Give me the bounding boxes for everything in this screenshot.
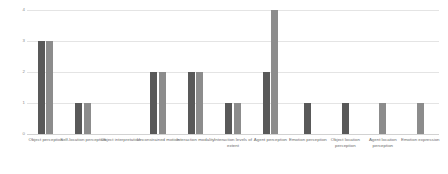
y-axis: 01234 <box>0 10 25 134</box>
y-tick-label-1: 1 <box>11 101 25 105</box>
bar <box>46 41 53 134</box>
bar-group <box>27 10 64 134</box>
y-tick-label-2: 2 <box>11 70 25 74</box>
bar <box>196 72 203 134</box>
bars-layer <box>27 10 439 134</box>
y-tick-label-0: 0 <box>11 132 25 136</box>
bar <box>304 103 311 134</box>
bar-group <box>402 10 439 134</box>
category-label: Emotion expression <box>396 137 444 143</box>
gridline-0 <box>27 134 439 135</box>
category-axis-labels: Object perceptionSelf-location perceptio… <box>27 137 439 167</box>
bar-group <box>289 10 326 134</box>
bar <box>234 103 241 134</box>
bar-group <box>214 10 251 134</box>
bar <box>38 41 45 134</box>
bar <box>75 103 82 134</box>
y-tick-label-3: 3 <box>11 39 25 43</box>
y-tick-label-4: 4 <box>11 8 25 12</box>
bar <box>159 72 166 134</box>
bar <box>271 10 278 134</box>
bar <box>84 103 91 134</box>
bar <box>225 103 232 134</box>
bar-group <box>177 10 214 134</box>
bar <box>263 72 270 134</box>
bar-chart: 01234 Object perceptionSelf-location per… <box>0 0 448 174</box>
bar-group <box>102 10 139 134</box>
bar <box>417 103 424 134</box>
bar-group <box>327 10 364 134</box>
bar-group <box>64 10 101 134</box>
bar-group <box>364 10 401 134</box>
bar-group <box>139 10 176 134</box>
bar <box>188 72 195 134</box>
bar <box>379 103 386 134</box>
bar-group <box>252 10 289 134</box>
bar <box>150 72 157 134</box>
bar <box>342 103 349 134</box>
